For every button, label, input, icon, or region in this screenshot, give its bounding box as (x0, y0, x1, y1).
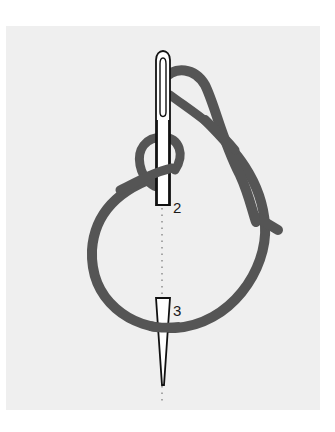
point-label-2: 2 (173, 199, 181, 216)
point-label-3: 3 (173, 302, 181, 319)
thread-bottom-front (150, 326, 180, 328)
needle-thread-illustration: 2 3 (0, 0, 335, 432)
needle-icon (156, 51, 170, 385)
